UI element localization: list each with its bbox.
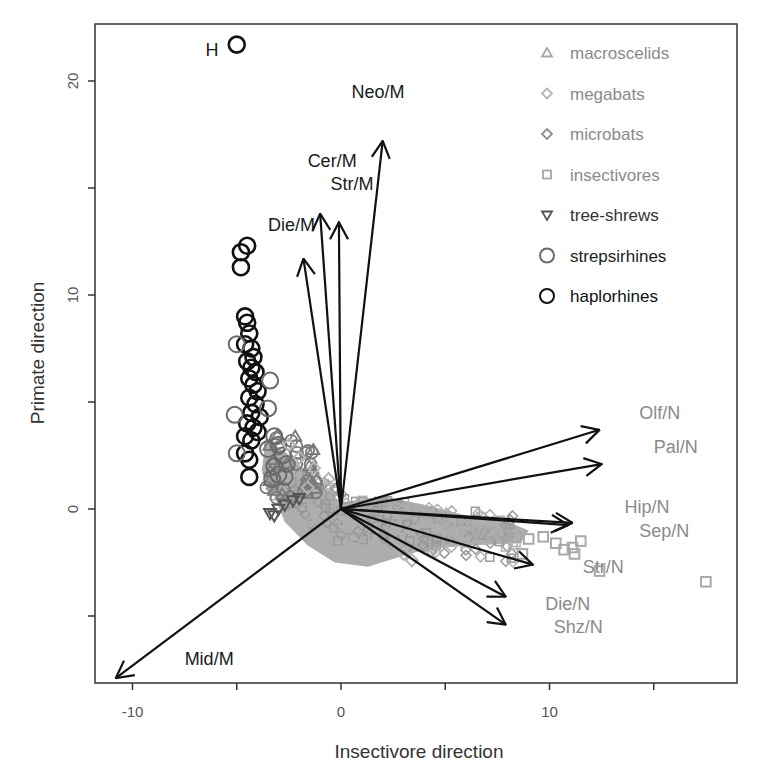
data-point	[229, 37, 245, 53]
plot-frame	[95, 24, 737, 683]
data-point	[538, 532, 548, 542]
y-axis-title: Primate direction	[27, 282, 48, 425]
legend-item-haplorhines: haplorhines	[540, 287, 658, 306]
square-legend-icon	[543, 171, 551, 179]
arrow-label: Cer/M	[308, 151, 357, 171]
legend-label: macroscelids	[570, 44, 669, 63]
data-point	[241, 469, 257, 485]
loading-arrows-layer	[116, 141, 602, 678]
data-point	[524, 534, 534, 544]
legend-item-insectivores: insectivores	[543, 166, 660, 185]
arrow-die-m	[303, 259, 341, 509]
circle-legend-icon	[540, 249, 554, 263]
arrow-label: Hip/N	[625, 497, 670, 517]
legend-item-macroscelids: macroscelids	[542, 44, 669, 63]
y-tick-label: 0	[64, 505, 81, 513]
biplot: Neo/MCer/MStr/MDie/MMid/MOlf/NPal/NHip/N…	[0, 0, 761, 778]
arrow-olf-n	[341, 430, 600, 509]
data-point	[701, 577, 711, 587]
series-haplorhines	[229, 37, 268, 485]
arrow-label: Sep/N	[639, 521, 689, 541]
legend-item-megabats: megabats	[542, 85, 645, 104]
arrow-label: Neo/M	[351, 82, 404, 102]
x-tick-label: -10	[122, 703, 144, 720]
legend-label: insectivores	[570, 166, 660, 185]
legend-item-microbats: microbats	[542, 125, 644, 144]
arrow-label: Mid/M	[185, 649, 234, 669]
circle-legend-icon	[540, 289, 554, 303]
y-tick-label: 10	[64, 287, 81, 304]
arrow-label: Die/M	[268, 215, 315, 235]
x-tick-label: 0	[337, 703, 345, 720]
legend-label: microbats	[570, 125, 644, 144]
x-axis-title: Insectivore direction	[335, 741, 504, 762]
legend-label: haplorhines	[570, 287, 658, 306]
legend-item-tree-shrews: tree-shrews	[542, 206, 659, 225]
arrow-cer-m	[320, 214, 341, 509]
x-tick-label: 10	[541, 703, 558, 720]
legend-item-strepsirhines: strepsirhines	[540, 247, 666, 266]
data-point	[518, 549, 528, 559]
y-tick-label: 20	[64, 73, 81, 90]
triangle-up-legend-icon	[542, 48, 552, 57]
legend-label: strepsirhines	[570, 247, 666, 266]
data-point	[227, 407, 243, 423]
arrow-label: Die/N	[545, 594, 590, 614]
arrow-label: Str/N	[583, 557, 624, 577]
legend: macroscelidsmegabatsmicrobatsinsectivore…	[540, 44, 669, 306]
data-point	[262, 373, 278, 389]
diamond-legend-icon	[542, 129, 552, 139]
arrow-pal-n	[341, 464, 602, 509]
legend-label: megabats	[570, 85, 645, 104]
arrow-label: Olf/N	[639, 403, 680, 423]
arrow-str-m	[339, 222, 341, 509]
diamond-legend-icon	[542, 89, 552, 99]
arrow-label: Str/M	[331, 174, 374, 194]
arrow-label: Shz/N	[554, 617, 603, 637]
triangle-down-legend-icon	[542, 212, 552, 221]
annotation-label: H	[205, 40, 218, 60]
legend-label: tree-shrews	[570, 206, 659, 225]
arrow-neo-m	[341, 141, 383, 509]
data-point	[233, 259, 249, 275]
arrow-label: Pal/N	[654, 437, 698, 457]
